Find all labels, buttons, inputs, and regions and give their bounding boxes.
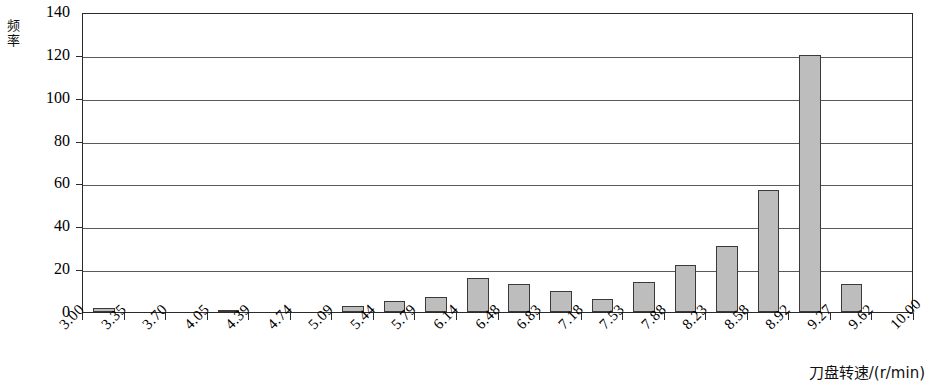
plot-area bbox=[82, 13, 913, 313]
y-tick-label: 120 bbox=[0, 46, 70, 64]
gridline bbox=[83, 100, 912, 101]
gridline bbox=[83, 271, 912, 272]
y-axis-label: 频率 bbox=[2, 18, 24, 48]
y-tick-label: 100 bbox=[0, 89, 70, 107]
y-tick-label: 80 bbox=[0, 132, 70, 150]
y-tick-label: 60 bbox=[0, 174, 70, 192]
bar bbox=[758, 190, 780, 312]
gridline bbox=[83, 57, 912, 58]
gridline bbox=[83, 185, 912, 186]
gridline bbox=[83, 228, 912, 229]
x-axis-label: 刀盘转速/(r/min) bbox=[809, 361, 925, 382]
histogram-figure: 频率 020406080100120140 3.003.353.704.054.… bbox=[0, 0, 943, 388]
y-tick-label: 40 bbox=[0, 217, 70, 235]
y-tick-label: 20 bbox=[0, 260, 70, 278]
bar bbox=[716, 246, 738, 312]
bar bbox=[799, 55, 821, 312]
gridline bbox=[83, 143, 912, 144]
bar bbox=[675, 265, 697, 312]
y-tick-label: 140 bbox=[0, 3, 70, 21]
